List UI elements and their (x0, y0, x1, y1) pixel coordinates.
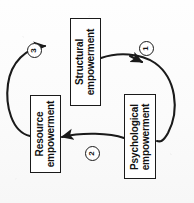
empowerment-cycle-diagram: Structural empowerment Resource empowerm… (0, 0, 194, 203)
edge-marker-1: 1 (139, 41, 154, 56)
edge-marker-2: 2 (85, 146, 100, 161)
node-structural-label-line1: Structural (75, 39, 86, 85)
node-resource-empowerment: Resource empowerment (30, 95, 61, 173)
node-resource-label-line1: Resource (35, 112, 46, 157)
node-resource-empowerment-label: Resource empowerment (35, 101, 57, 168)
node-structural-label-line2: empowerment (86, 29, 97, 96)
node-structural-empowerment-label: Structural empowerment (75, 29, 97, 96)
node-psychological-label-line2: empowerment (140, 103, 151, 170)
node-structural-empowerment: Structural empowerment (70, 18, 101, 106)
node-psychological-empowerment: Psychological empowerment (124, 94, 156, 179)
edge-psychological-to-resource (62, 134, 124, 138)
node-psychological-label-line1: Psychological (129, 104, 140, 170)
node-resource-label-line2: empowerment (46, 101, 57, 168)
node-psychological-empowerment-label: Psychological empowerment (129, 103, 151, 170)
edge-marker-3: 3 (27, 43, 42, 58)
